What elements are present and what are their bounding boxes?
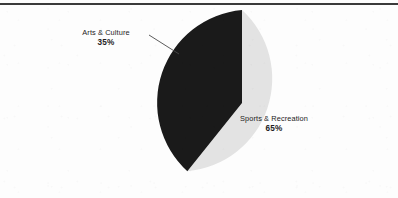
chart-plot-area: Arts & Culture 35% Sports & Recreation 6… <box>0 0 398 198</box>
pie-chart-figure: Arts & Culture 35% Sports & Recreation 6… <box>0 0 398 198</box>
slice-label-arts-culture-name: Arts & Culture <box>60 29 152 38</box>
slice-label-arts-culture-value: 35% <box>60 38 152 48</box>
slice-label-sports-recreation: Sports & Recreation 65% <box>228 115 320 133</box>
slice-label-sports-recreation-value: 65% <box>228 124 320 134</box>
slice-label-arts-culture: Arts & Culture 35% <box>60 29 152 47</box>
leader-line-arts-culture <box>149 35 179 54</box>
slice-label-sports-recreation-name: Sports & Recreation <box>228 115 320 124</box>
